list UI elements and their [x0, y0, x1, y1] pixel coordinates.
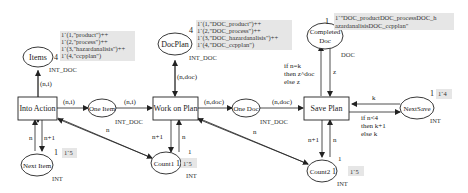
svg-text:Count2: Count2 [310, 168, 331, 176]
token-count: 1 [332, 167, 336, 176]
place-next-save[interactable]: NextSave [400, 97, 434, 119]
place-type: INT [186, 172, 197, 179]
arc-label: then z^doc [284, 70, 314, 78]
svg-text:Next Item: Next Item [23, 162, 52, 170]
arc-label: n+1 [308, 136, 319, 144]
token-count: 1 [325, 17, 329, 26]
arc-label: k [372, 94, 376, 102]
arc-label: n [253, 128, 257, 136]
place-type: INT_DOC [189, 54, 217, 61]
arc-label: n+1 [44, 134, 55, 142]
arc-label: if n<4 [361, 114, 378, 122]
arc-label: (n,doc) [272, 98, 293, 106]
place-type: DOC [341, 51, 355, 58]
place-type: INT_DOC [260, 118, 288, 125]
svg-text:Work on Plan: Work on Plan [154, 104, 198, 113]
arc-label: if n=k [284, 62, 301, 70]
place-type: INT [337, 180, 348, 187]
transition-work-on-plan[interactable]: Work on Plan [153, 97, 198, 120]
arc-label: 1 [188, 148, 192, 156]
svg-text:Count1: Count1 [154, 160, 175, 168]
svg-text:DocPlan: DocPlan [161, 40, 189, 49]
place-items[interactable]: Items [23, 47, 53, 67]
svg-text:Doc: Doc [319, 37, 331, 45]
arc-label: else z [284, 78, 300, 86]
arc-label: n [333, 136, 337, 144]
marking-line: azardanalisisDOC_ccpplan" [335, 22, 409, 29]
arc-label: 1 [338, 155, 342, 163]
petri-net-diagram: (n,i) (n,i) (n,i) (n,doc) (n,doc) (n,doc… [0, 0, 468, 193]
marking-line: 1`(4,"ccpplan") [61, 52, 101, 60]
svg-text:One Item: One Item [89, 105, 116, 113]
token-count: 1 [176, 159, 180, 168]
place-type: INT [52, 175, 63, 182]
token-count: 1 [430, 89, 434, 98]
arc-label: (n,i) [40, 80, 53, 88]
place-one-item[interactable]: One Item [88, 99, 116, 117]
svg-text:One Doc: One Doc [233, 105, 258, 113]
svg-text:Into Action: Into Action [19, 104, 55, 113]
marking-line: 1`5 [64, 149, 73, 156]
arc-label: n [182, 133, 186, 141]
svg-text:NextSave: NextSave [403, 105, 430, 113]
svg-text:Items: Items [29, 53, 47, 62]
arc-label: z [333, 68, 336, 76]
arc-label: else k [361, 130, 378, 138]
arc-label: (n,i) [124, 98, 137, 106]
arc-count2-work [198, 119, 308, 164]
marking-line: 1`"DOC_productDOC_processDOC_h [335, 14, 437, 21]
marking-line: 1`4 [438, 90, 447, 97]
transition-save-plan[interactable]: Save Plan [304, 97, 349, 120]
arc-label: n [29, 134, 33, 142]
marking-line: 1`5 [350, 168, 359, 175]
arc-label: (n,i) [63, 98, 76, 106]
token-count: 4 [54, 53, 58, 62]
marking-line: 1`5 [183, 160, 192, 167]
token-count: 4 [189, 26, 193, 35]
arc-label: n [106, 126, 110, 134]
svg-text:Save Plan: Save Plan [311, 104, 343, 113]
place-type: INT_DOC [115, 118, 143, 125]
place-docplan[interactable]: DocPlan [158, 33, 192, 55]
arc-label: (n,doc) [177, 73, 198, 81]
place-one-doc[interactable]: One Doc [232, 99, 260, 117]
arc-label: then k+1 [361, 122, 386, 130]
place-type: INT [430, 117, 441, 124]
token-count: 1 [54, 148, 58, 157]
arc-label: n+1 [152, 133, 163, 141]
marking-line: 1`(4,"DOC_ccpplan") [197, 41, 254, 49]
transition-into-action[interactable]: Into Action [18, 97, 57, 120]
place-next-item[interactable]: Next Item [21, 154, 53, 176]
place-type: INT_DOC [49, 66, 77, 73]
arc-label: (n,doc) [204, 98, 225, 106]
